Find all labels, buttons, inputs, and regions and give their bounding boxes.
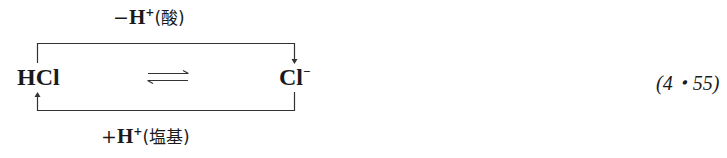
bottom-annotation-base: (塩基) — [142, 127, 189, 147]
forward-path-line — [38, 44, 295, 64]
equation-number: (4・55) — [656, 67, 719, 96]
right-species-chloride: Cl− — [279, 64, 310, 91]
equilibrium-arrows-icon — [148, 71, 189, 84]
reverse-path-line — [38, 92, 295, 111]
bottom-proton: H — [117, 124, 133, 148]
left-species-hcl: HCl — [17, 64, 60, 91]
chloride-charge: − — [303, 64, 310, 79]
bottom-sign: + — [101, 125, 117, 147]
arrowhead-up-icon — [35, 92, 41, 97]
chloride-base: Cl — [279, 64, 303, 90]
bottom-label: +H+(塩基) — [101, 123, 190, 149]
